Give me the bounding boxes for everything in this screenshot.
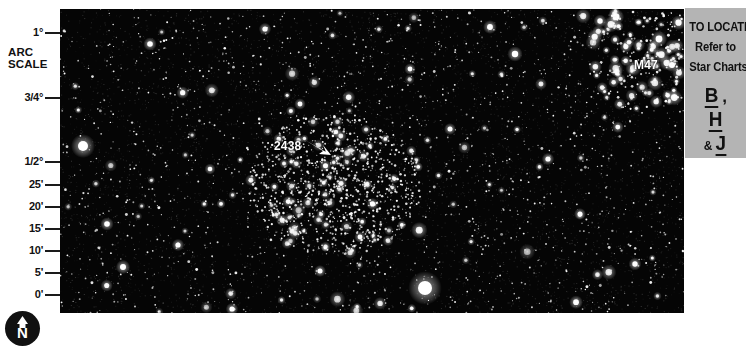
to-locate-heading: TO LOCATE [689,20,741,33]
scale-label-20min: 20' [29,201,43,212]
label-m47: M47 [634,59,658,71]
scale-label-0min: 0' [35,289,43,300]
scale-label-5min: 5' [35,267,43,278]
svg-text:N: N [17,324,28,341]
chart-reference-h[interactable]: H [685,108,746,132]
chart-ampersand: & [704,140,713,152]
scale-tick-10min [45,250,60,252]
star-field-photo: 2438 M47 [60,9,684,313]
scale-tick-3-4deg [45,97,60,99]
scale-label-1-2deg: 1/2° [25,156,44,167]
scale-tick-15min [45,228,60,230]
chart-reference-j[interactable]: & J [685,132,746,156]
scale-tick-20min [45,206,60,208]
star-field-canvas [60,9,684,313]
pointer-arrow-icon [304,137,336,163]
arc-scale-title-line1: ARC [8,46,47,58]
scale-label-1deg: 1° [33,27,43,38]
chart-letter-h: H [709,108,723,132]
north-arrow-icon: N [5,311,40,346]
scale-label-10min: 10' [29,245,43,256]
arc-scale-gutter: ARC SCALE 1° 3/4° 1/2° 25' 20' 15' 10' 5… [0,0,60,350]
refer-to-text: Refer to [689,40,741,53]
scale-tick-1-2deg [45,161,60,163]
scale-tick-0min [45,294,60,296]
to-locate-panel: TO LOCATE Refer to Star Charts B , H & J [685,8,746,158]
arc-scale-title: ARC SCALE [8,46,47,70]
scale-tick-25min [45,184,60,186]
scale-label-15min: 15' [29,223,43,234]
label-ngc-2438: 2438 [274,140,302,152]
scale-tick-5min [45,272,60,274]
scale-label-3-4deg: 3/4° [25,92,44,103]
chart-letter-j: J [716,132,727,156]
chart-reference-b[interactable]: B , [685,84,746,108]
arc-scale-title-line2: SCALE [8,58,47,70]
chart-letter-b: B [705,84,719,108]
chart-comma-b: , [722,88,727,105]
scale-label-25min: 25' [29,179,43,190]
scale-tick-1deg [45,32,60,34]
star-charts-text: Star Charts [689,60,741,73]
